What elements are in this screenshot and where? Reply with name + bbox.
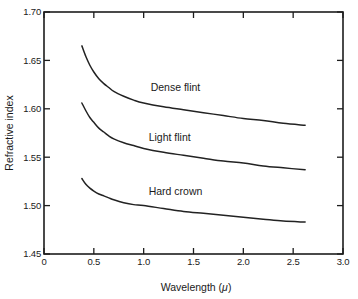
y-tick-label: 1.65 xyxy=(23,55,41,66)
x-tick-label: 2.0 xyxy=(237,256,250,267)
y-axis-tick-labels: 1.451.501.551.601.651.70 xyxy=(23,6,41,259)
y-tick-label: 1.55 xyxy=(23,152,41,163)
curve-light-flint xyxy=(82,103,305,170)
series-label-light-flint: Light flint xyxy=(149,131,191,143)
x-tick-label: 2.5 xyxy=(287,256,300,267)
x-tick-label: 0.5 xyxy=(88,256,101,267)
x-tick-label: 1.5 xyxy=(187,256,200,267)
y-tick-label: 1.50 xyxy=(23,200,41,211)
y-tick-label: 1.70 xyxy=(23,6,41,17)
series-label-hard-crown: Hard crown xyxy=(149,185,203,197)
figure-container: 1.451.501.551.601.651.70 00.51.01.52.02.… xyxy=(0,0,358,299)
plot-frame xyxy=(44,12,343,254)
series-label-dense-flint: Dense flint xyxy=(151,81,201,93)
y-tick-label: 1.60 xyxy=(23,103,41,114)
series-annotations: Dense flintLight flintHard crown xyxy=(149,81,203,197)
x-tick-label: 0 xyxy=(41,256,46,267)
y-tick-label: 1.45 xyxy=(23,248,41,259)
x-axis-tick-labels: 00.51.01.52.02.53.0 xyxy=(41,256,349,267)
axis-ticks xyxy=(44,12,343,254)
y-axis-title: Refractive index xyxy=(3,95,15,171)
refractive-index-chart: 1.451.501.551.601.651.70 00.51.01.52.02.… xyxy=(0,0,358,299)
x-tick-label: 3.0 xyxy=(337,256,350,267)
mu-symbol: μ xyxy=(221,281,228,293)
x-tick-label: 1.0 xyxy=(137,256,150,267)
x-axis-title: Wavelength (μ) xyxy=(161,281,232,293)
